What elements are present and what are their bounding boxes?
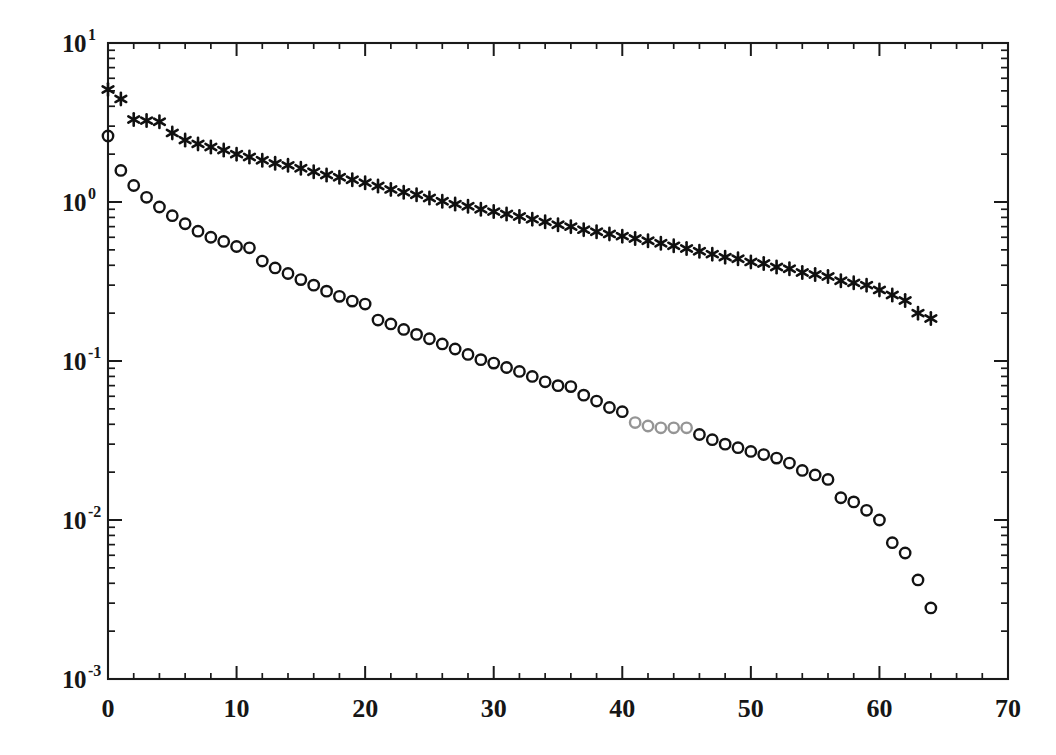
data-point-asterisk	[283, 159, 294, 171]
y-tick-label: 100	[62, 185, 96, 216]
data-point-circle	[270, 263, 280, 273]
data-point-asterisk	[771, 261, 782, 273]
data-point-circle	[360, 299, 370, 309]
data-point-asterisk	[887, 289, 898, 301]
data-point-asterisk	[115, 93, 126, 105]
data-point-circle	[296, 274, 306, 284]
data-point-asterisk	[514, 210, 525, 222]
data-point-circle	[797, 465, 807, 475]
figure-canvas: 010203040506070 10110010-110-210-3	[0, 0, 1056, 755]
data-point-circle	[694, 429, 704, 439]
data-point-asterisk	[604, 228, 615, 240]
data-point-circle	[141, 192, 151, 202]
y-tick-label: 10-2	[62, 503, 101, 534]
data-point-asterisk	[244, 151, 255, 163]
data-point-asterisk	[205, 141, 216, 153]
data-point-asterisk	[810, 268, 821, 280]
data-point-circle	[604, 402, 614, 412]
data-point-asterisk	[668, 240, 679, 252]
data-point-asterisk	[540, 216, 551, 228]
data-point-asterisk	[874, 284, 885, 296]
data-point-circle	[437, 339, 447, 349]
series-asterisk-markers	[103, 83, 937, 324]
x-axis-tick-labels: 010203040506070	[102, 694, 1022, 723]
data-point-circle	[527, 371, 537, 381]
data-point-asterisk	[167, 127, 178, 139]
data-point-asterisk	[257, 154, 268, 166]
data-point-circle	[476, 354, 486, 364]
data-point-circle	[771, 453, 781, 463]
data-point-asterisk	[823, 270, 834, 282]
svg-text:10: 10	[62, 348, 86, 375]
data-point-asterisk	[437, 195, 448, 207]
y-tick-label: 101	[62, 26, 96, 57]
data-point-asterisk	[334, 171, 345, 183]
svg-text:10: 10	[62, 189, 86, 216]
data-point-asterisk	[758, 257, 769, 269]
data-point-circle	[836, 493, 846, 503]
svg-text:-3: -3	[88, 662, 101, 679]
data-point-circle	[514, 366, 524, 376]
data-point-circle	[887, 537, 897, 547]
data-point-circle	[193, 226, 203, 236]
data-point-asterisk	[733, 252, 744, 264]
data-point-circle	[257, 256, 267, 266]
data-point-asterisk	[630, 232, 641, 244]
y-tick-label: 10-3	[62, 662, 101, 693]
data-point-circle	[219, 236, 229, 246]
data-point-asterisk	[617, 230, 628, 242]
data-point-asterisk	[231, 148, 242, 160]
data-point-asterisk	[900, 294, 911, 306]
data-point-asterisk	[308, 166, 319, 178]
data-point-asterisk	[707, 248, 718, 260]
data-point-asterisk	[694, 245, 705, 257]
data-point-circle	[309, 280, 319, 290]
data-point-asterisk	[475, 203, 486, 215]
data-point-asterisk	[398, 186, 409, 198]
data-point-circle	[373, 315, 383, 325]
data-point-circle	[231, 241, 241, 251]
data-point-circle	[167, 211, 177, 221]
data-point-asterisk	[270, 157, 281, 169]
data-point-asterisk	[347, 174, 358, 186]
data-point-circle	[154, 202, 164, 212]
data-point-asterisk	[463, 200, 474, 212]
data-point-circle	[733, 442, 743, 452]
x-tick-label: 60	[866, 694, 892, 723]
data-point-asterisk	[488, 205, 499, 217]
data-point-circle	[411, 329, 421, 339]
data-point-asterisk	[861, 279, 872, 291]
data-point-circle	[424, 334, 434, 344]
x-tick-label: 10	[224, 694, 250, 723]
data-point-circle	[707, 434, 717, 444]
data-point-circle	[823, 474, 833, 484]
data-point-circle	[861, 505, 871, 515]
x-tick-label: 0	[102, 694, 115, 723]
data-point-asterisk	[925, 312, 936, 324]
data-point-asterisk	[835, 274, 846, 286]
data-point-circle	[283, 268, 293, 278]
scatter-plot: 010203040506070 10110010-110-210-3	[0, 0, 1056, 755]
data-point-circle	[720, 439, 730, 449]
data-point-circle	[386, 319, 396, 329]
data-point-circle	[540, 377, 550, 387]
data-point-asterisk	[193, 138, 204, 150]
data-point-asterisk	[450, 198, 461, 210]
data-point-asterisk	[501, 208, 512, 220]
data-point-asterisk	[424, 192, 435, 204]
x-tick-label: 70	[995, 694, 1021, 723]
data-point-circle	[759, 449, 769, 459]
svg-text:10: 10	[62, 30, 86, 57]
x-tick-label: 30	[481, 694, 507, 723]
data-point-asterisk	[103, 83, 114, 95]
data-point-asterisk	[411, 189, 422, 201]
data-point-circle	[463, 349, 473, 359]
data-point-circle	[643, 421, 653, 431]
data-point-asterisk	[180, 134, 191, 146]
data-point-circle	[591, 396, 601, 406]
svg-text:-1: -1	[88, 344, 101, 361]
data-point-circle	[321, 286, 331, 296]
data-point-asterisk	[643, 235, 654, 247]
data-point-circle	[501, 362, 511, 372]
data-point-asterisk	[655, 237, 666, 249]
